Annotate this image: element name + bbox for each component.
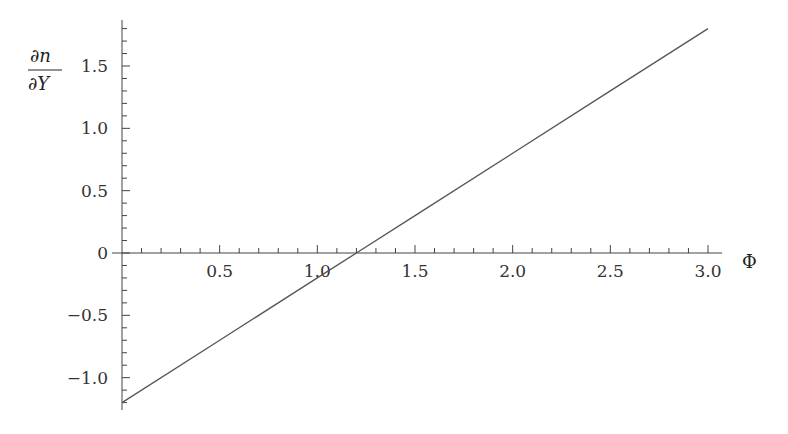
- y-axis-label-numerator: ∂n: [30, 45, 51, 66]
- y-tick-label: 0.5: [81, 181, 108, 201]
- y-tick-label: 0: [97, 243, 108, 263]
- y-tick-label: −1.0: [67, 368, 108, 388]
- x-tick-label: 0.5: [206, 261, 233, 281]
- y-axis: −1.0−0.500.51.01.5: [67, 20, 130, 410]
- y-tick-label: 1.5: [81, 56, 108, 76]
- x-tick-label: 1.5: [401, 261, 428, 281]
- x-tick-label: 2.0: [499, 261, 526, 281]
- y-axis-label-denominator: ∂Y: [28, 73, 51, 94]
- data-series: [122, 29, 708, 403]
- x-tick-label: 3.0: [694, 261, 721, 281]
- line-chart: −1.0−0.500.51.01.5 0.51.01.52.02.53.0 Φ …: [0, 0, 788, 434]
- x-tick-label: 2.5: [597, 261, 624, 281]
- y-tick-label: −0.5: [67, 305, 108, 325]
- x-axis-label: Φ: [742, 251, 757, 272]
- y-axis-label: ∂n ∂Y: [28, 45, 62, 94]
- x-axis: 0.51.01.52.02.53.0: [122, 245, 722, 281]
- y-tick-label: 1.0: [81, 118, 108, 138]
- series-line: [122, 29, 708, 403]
